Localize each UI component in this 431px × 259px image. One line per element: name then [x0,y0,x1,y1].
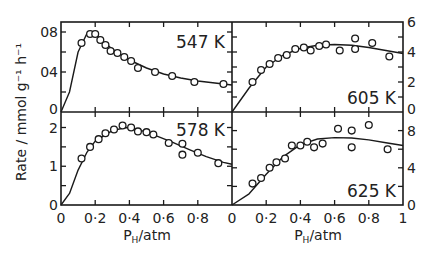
data-point [292,46,299,53]
rate-vs-pressure-chart: 00408547 K0246605 K012578 K048625 K00·20… [0,0,431,259]
data-point [92,31,99,38]
data-point [348,127,355,134]
data-point [386,53,393,60]
y-tick-label: 4 [407,44,416,60]
svg-text:PH/atm: PH/atm [123,227,171,245]
panel-625k: 048625 K [232,112,416,213]
panel-578k: 012578 K [49,112,232,213]
data-point [304,138,311,145]
data-point [135,128,142,135]
data-point [352,35,359,42]
y-tick-label: 4 [407,160,416,176]
panel-605k: 0246605 K [232,14,416,117]
svg-text:0·4: 0·4 [118,210,140,226]
data-point [249,79,256,86]
temperature-label: 547 K [176,32,226,52]
svg-text:PH/atm: PH/atm [294,227,342,245]
y-tick-label: 04 [40,64,58,80]
data-point [179,151,186,158]
data-point [111,126,118,133]
data-point [323,41,330,48]
y-tick-label: 6 [407,14,416,30]
data-point [165,140,172,147]
y-axis-title: Rate / mmol g⁻¹ h⁻¹ [13,43,29,181]
data-point [102,130,109,137]
data-point [348,144,355,151]
data-point [152,69,159,76]
data-point [215,160,222,167]
svg-text:0·2: 0·2 [255,210,277,226]
x-axis-title-right: PH/atm [294,227,342,245]
data-point [128,124,135,131]
data-point [220,81,227,88]
svg-text:0: 0 [228,210,237,226]
data-point [384,146,391,153]
data-point [121,54,128,61]
data-point [365,122,372,129]
x-axis-title-left: PH/atm [123,227,171,245]
data-point [102,42,109,49]
temperature-label: 625 K [347,181,397,201]
y-tick-label: 2 [407,74,416,90]
data-point [119,122,126,129]
y-tick-label: 0 [407,101,416,117]
plot-panels: 00408547 K0246605 K012578 K048625 K00·20… [40,14,416,226]
data-point [78,155,85,162]
y-tick-label: 08 [40,24,58,40]
data-point [150,131,157,138]
y-tick-label: 0 [407,197,416,213]
data-point [179,140,186,147]
data-point [258,175,265,182]
svg-text:0·4: 0·4 [289,210,311,226]
data-point [336,47,343,54]
svg-text:0·8: 0·8 [187,210,209,226]
y-tick-label: 8 [407,123,416,139]
data-point [114,50,121,57]
data-point [300,44,307,51]
data-point [194,149,201,156]
y-tick-label: 0 [49,101,58,117]
svg-text:0·8: 0·8 [358,210,380,226]
data-point [169,73,176,80]
temperature-label: 578 K [176,120,226,140]
data-point [283,52,290,59]
svg-text:0: 0 [57,210,66,226]
data-point [273,159,280,166]
y-tick-label: 1 [49,158,58,174]
data-point [297,142,304,149]
data-point [319,140,326,147]
data-point [335,125,342,132]
y-tick-label: 2 [49,120,58,136]
svg-text:0·6: 0·6 [323,210,345,226]
data-point [266,164,273,171]
x-tick-labels: 00·20·40·60·800·20·40·60·81 [57,210,408,226]
data-point [78,40,85,47]
data-point [311,144,318,151]
data-point [275,55,282,62]
data-point [307,47,314,54]
data-point [249,180,256,187]
data-point [258,67,265,74]
data-point [191,79,198,86]
temperature-label: 605 K [347,88,397,108]
data-point [95,136,102,143]
data-point [143,129,150,136]
data-point [128,58,135,65]
svg-text:0·2: 0·2 [84,210,106,226]
data-point [87,143,94,150]
data-point [288,142,295,149]
data-point [316,43,323,50]
data-point [107,48,114,55]
data-point [369,40,376,47]
data-point [266,61,273,68]
data-point [352,46,359,53]
svg-text:0·6: 0·6 [152,210,174,226]
data-point [135,65,142,72]
data-point [282,155,289,162]
svg-text:1: 1 [399,210,408,226]
panel-547k: 00408547 K [40,22,232,117]
